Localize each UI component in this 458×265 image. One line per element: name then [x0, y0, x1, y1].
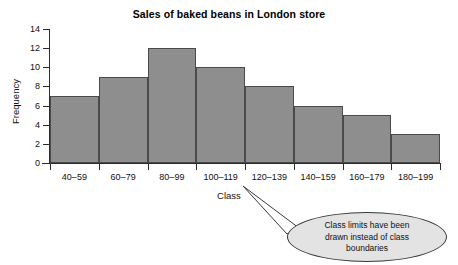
- y-axis-tick-label: 10: [20, 62, 40, 72]
- histogram-bar: [148, 48, 197, 163]
- y-axis-tick-label: 4: [20, 120, 40, 130]
- y-axis-tick: [43, 144, 49, 145]
- histogram-bar: [99, 77, 148, 163]
- x-axis-tick-label: 180–199: [398, 172, 433, 182]
- x-axis-tick: [343, 164, 344, 170]
- y-axis-tick-label: 2: [20, 139, 40, 149]
- callout-text-line: Class limits have been: [301, 220, 433, 232]
- x-axis-tick-label: 60–79: [111, 172, 136, 182]
- y-axis-tick: [43, 106, 49, 107]
- x-axis-tick-label: 100–119: [203, 172, 237, 182]
- x-axis-tick: [148, 164, 149, 170]
- histogram-bar: [196, 67, 245, 163]
- y-axis-tick: [43, 163, 49, 164]
- y-axis-tick-label: 6: [20, 101, 40, 111]
- histogram-figure: Sales of baked beans in London store Fre…: [0, 0, 458, 265]
- histogram-bar: [391, 134, 440, 163]
- x-axis-tick-label: 140–159: [301, 172, 336, 182]
- y-axis-tick: [43, 86, 49, 87]
- y-axis-title: Frequency: [10, 59, 21, 145]
- x-axis-tick: [50, 164, 51, 170]
- x-axis-line: [42, 163, 441, 164]
- y-axis-tick: [43, 29, 49, 30]
- x-axis-tick: [245, 164, 246, 170]
- callout-text: Class limits have beendrawn instead of c…: [301, 220, 433, 255]
- y-axis-tick-label: 14: [20, 24, 40, 34]
- histogram-bar: [50, 96, 99, 163]
- x-axis-tick-label: 80–99: [159, 172, 184, 182]
- histogram-bar: [294, 106, 343, 163]
- y-axis-tick-label: 12: [20, 43, 40, 53]
- callout-text-line: boundaries: [301, 243, 433, 255]
- chart-title: Sales of baked beans in London store: [0, 8, 458, 20]
- y-axis-tick: [43, 125, 49, 126]
- x-axis-tick: [294, 164, 295, 170]
- y-axis-tick: [43, 48, 49, 49]
- x-axis-tick-label: 120–139: [252, 172, 287, 182]
- x-axis-title: Class: [0, 190, 458, 201]
- histogram-bar: [245, 86, 294, 163]
- callout-text-line: drawn instead of class: [301, 232, 433, 244]
- x-axis-tick: [196, 164, 197, 170]
- y-axis-tick-label: 0: [20, 158, 40, 168]
- y-axis-tick-label: 8: [20, 81, 40, 91]
- histogram-bar: [343, 115, 392, 163]
- x-axis-tick: [391, 164, 392, 170]
- class-limits-callout: Class limits have beendrawn instead of c…: [287, 212, 447, 262]
- plot-area: [50, 29, 440, 163]
- y-axis-tick: [43, 67, 49, 68]
- x-axis-tick: [99, 164, 100, 170]
- x-axis-tick-label: 40–59: [62, 172, 87, 182]
- x-axis-tick: [440, 164, 441, 170]
- x-axis-tick-label: 160–179: [349, 172, 384, 182]
